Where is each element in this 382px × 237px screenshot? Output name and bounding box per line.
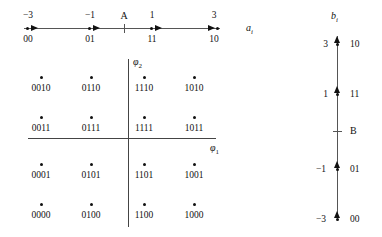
axis-a-point-2 <box>150 27 153 30</box>
axis-a-point-1 <box>88 27 91 30</box>
axis-b-name: bi <box>331 10 338 24</box>
constellation-label: 0011 <box>28 123 54 133</box>
axis-b-name-subscript: i <box>336 16 338 24</box>
constellation-dot <box>193 203 196 206</box>
constellation-dot <box>40 116 43 119</box>
constellation-label: 0000 <box>28 210 54 220</box>
constellation-point: 0001 <box>28 163 54 180</box>
axis-a-arrow-1 <box>93 25 100 31</box>
constellation-point: 1000 <box>181 203 207 220</box>
constellation-point: 1100 <box>131 203 157 220</box>
axis-b-code-0: 10 <box>350 39 372 49</box>
axis-b-value-3: −3 <box>306 214 326 224</box>
axis-b-code-2: 01 <box>350 164 372 174</box>
axis-a-arrow-0 <box>31 25 38 31</box>
constellation-label: 1010 <box>181 83 207 93</box>
axis-b-arrow-3 <box>334 211 340 218</box>
constellation-dot <box>193 76 196 79</box>
axis-a-code-2: 11 <box>140 34 164 44</box>
constellation-label: 0001 <box>28 170 54 180</box>
constellation-point: 0011 <box>28 116 54 133</box>
constellation-dot <box>193 116 196 119</box>
constellation-point: 0110 <box>78 76 104 93</box>
axis-b-point-3 <box>336 218 339 221</box>
axis-b-point-0 <box>336 43 339 46</box>
constellation-dot <box>40 76 43 79</box>
constellation-label: 1111 <box>131 123 157 133</box>
axis-b-value-1: 1 <box>308 89 328 99</box>
constellation-point: 1011 <box>181 116 207 133</box>
axis-phi1-label-subscript: 1 <box>216 148 220 156</box>
axis-a-point-0 <box>26 27 29 30</box>
axis-a-origin-tick <box>124 24 125 33</box>
constellation-dot <box>143 116 146 119</box>
axis-b-origin-label: B <box>350 125 370 136</box>
axis-a-value-0: −3 <box>16 10 40 20</box>
axis-b-line <box>337 36 338 218</box>
axis-a-code-1: 01 <box>78 34 102 44</box>
axis-a-name: ai <box>246 22 253 36</box>
constellation-point: 1010 <box>181 76 207 93</box>
constellation-label: 1101 <box>131 170 157 180</box>
constellation-point: 0010 <box>28 76 54 93</box>
constellation-label: 1001 <box>181 170 207 180</box>
constellation-label: 0101 <box>78 170 104 180</box>
axis-a-point-3 <box>216 27 219 30</box>
constellation-dot <box>143 76 146 79</box>
axis-phi1-line <box>28 138 216 139</box>
constellation-point: 1110 <box>131 76 157 93</box>
constellation-dot <box>90 203 93 206</box>
axis-b-origin-tick <box>333 131 342 132</box>
axis-b-code-1: 11 <box>350 89 372 99</box>
axis-b-point-2 <box>336 168 339 171</box>
axis-a-value-3: 3 <box>202 10 226 20</box>
constellation-dot <box>40 203 43 206</box>
constellation-point: 0100 <box>78 203 104 220</box>
constellation-dot <box>143 163 146 166</box>
constellation-point: 1001 <box>181 163 207 180</box>
axis-phi2-label-subscript: 2 <box>139 62 143 70</box>
constellation-label: 0100 <box>78 210 104 220</box>
axis-b-code-3: 00 <box>350 214 372 224</box>
axis-a-arrow-3 <box>208 25 215 31</box>
constellation-label: 1110 <box>131 83 157 93</box>
constellation-point: 0111 <box>78 116 104 133</box>
axis-a-code-3: 10 <box>202 34 226 44</box>
axis-b-arrow-2 <box>334 161 340 168</box>
constellation-dot <box>90 163 93 166</box>
constellation-point: 1111 <box>131 116 157 133</box>
constellation-point: 0101 <box>78 163 104 180</box>
axis-b-arrow-1 <box>334 86 340 93</box>
constellation-label: 1000 <box>181 210 207 220</box>
axis-b-value-0: 3 <box>308 39 328 49</box>
constellation-label: 1100 <box>131 210 157 220</box>
constellation-dot <box>193 163 196 166</box>
constellation-label: 0111 <box>78 123 104 133</box>
axis-a-code-0: 00 <box>16 34 40 44</box>
axis-phi2-label: φ2 <box>133 56 142 70</box>
constellation-point: 0000 <box>28 203 54 220</box>
axis-a-line <box>24 28 220 29</box>
axis-b-arrow-0 <box>334 36 340 43</box>
axis-a-value-1: −1 <box>78 10 102 20</box>
constellation-label: 0110 <box>78 83 104 93</box>
constellation-point: 1101 <box>131 163 157 180</box>
constellation-figure: −3 00 −1 01 A 1 11 3 10 ai φ2 φ1 0010 01… <box>0 0 382 237</box>
constellation-dot <box>143 203 146 206</box>
axis-phi1-label: φ1 <box>210 142 219 156</box>
constellation-dot <box>90 76 93 79</box>
axis-a-origin-label: A <box>114 10 134 21</box>
constellation-dot <box>40 163 43 166</box>
axis-b-point-1 <box>336 93 339 96</box>
axis-b-value-2: −1 <box>306 164 326 174</box>
axis-a-name-subscript: i <box>251 28 253 36</box>
axis-a-arrow-2 <box>155 25 162 31</box>
constellation-dot <box>90 116 93 119</box>
constellation-label: 0010 <box>28 83 54 93</box>
constellation-label: 1011 <box>181 123 207 133</box>
axis-phi2-line <box>128 59 129 227</box>
axis-a-value-2: 1 <box>140 10 164 20</box>
